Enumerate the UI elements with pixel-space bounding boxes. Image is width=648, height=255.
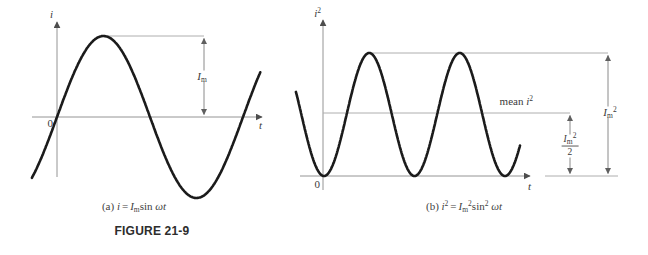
plot-lines-svg: [0, 0, 648, 255]
figure-label: FIGURE 21-9: [115, 225, 190, 237]
a-caption: (a) i=Imsin ωt: [102, 201, 166, 212]
figure-21-9: i 0 t Im (a) i=Imsin ωt FIGURE 21-9 i2 0…: [0, 0, 648, 255]
b-caption: (b) i2=Im2sin2 ωt: [426, 201, 502, 212]
a-x-axis-label: t: [259, 120, 262, 131]
a-amplitude-label: Im: [196, 71, 208, 82]
b-mean-label: mean i2: [500, 96, 533, 107]
a-origin-label: 0: [48, 118, 54, 129]
b-peak-value-label: Im2: [602, 107, 617, 118]
b-sin-squared-curve: [296, 53, 520, 176]
b-y-axis-label: i2: [314, 8, 321, 19]
a-y-axis-label: i: [50, 9, 53, 20]
b-origin-label: 0: [315, 179, 321, 190]
b-half-value-label: Im2 2: [561, 135, 580, 158]
b-x-axis-label: t: [528, 181, 531, 192]
